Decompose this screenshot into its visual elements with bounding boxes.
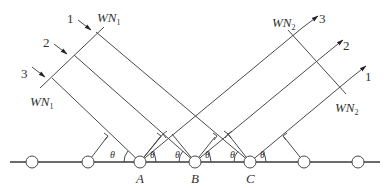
ray-label: 2	[343, 38, 350, 53]
angle-label: θ	[110, 149, 115, 160]
wavefront-wn2	[288, 30, 346, 94]
arrow-icon	[328, 40, 343, 52]
node-c	[244, 156, 256, 168]
angle-label: θ	[205, 149, 210, 160]
ray-label: 1	[67, 11, 74, 26]
arrow-icon	[78, 20, 91, 30]
node-a	[134, 156, 146, 168]
incident-ray-3	[52, 78, 140, 162]
right-angle-mark	[157, 133, 161, 140]
arrow-icon	[352, 66, 366, 77]
reflected-ray-1	[250, 77, 352, 162]
arrow-icon	[302, 16, 318, 28]
wavefront-label-wn1-top: WN1	[97, 10, 121, 27]
point-label-b: B	[191, 171, 199, 186]
node	[298, 156, 310, 168]
wavefront-wn1	[40, 27, 104, 88]
reflection-diagram: θ θ θ θ θ θ A B C 1 2 3 3 2 1 WN1 WN1 WN…	[0, 0, 386, 188]
wavefront-label-wn1-bottom: WN1	[30, 94, 54, 111]
ray-label: 3	[21, 66, 28, 81]
wavefront-label-wn2-top: WN2	[272, 15, 296, 32]
angle-label: θ	[175, 149, 180, 160]
point-label-c: C	[246, 171, 255, 186]
wavefront-label-wn2-bottom: WN2	[335, 100, 359, 117]
arrow-icon	[54, 44, 67, 54]
node	[82, 156, 94, 168]
right-angle-mark	[228, 131, 232, 138]
angle-arc	[124, 151, 128, 162]
node	[26, 156, 38, 168]
angle-label: θ	[260, 149, 265, 160]
reflected-ray-2	[195, 52, 328, 162]
reflected-ray-3	[140, 28, 302, 162]
ray-label: 1	[365, 69, 372, 84]
angle-label: θ	[230, 149, 235, 160]
angle-label: θ	[150, 149, 155, 160]
ray-label: 3	[319, 11, 326, 26]
point-label-a: A	[135, 171, 144, 186]
incident-ray-2	[74, 55, 195, 162]
node	[352, 156, 364, 168]
ray-label: 2	[43, 35, 50, 50]
right-angle-mark	[104, 133, 108, 140]
arrow-icon	[32, 67, 45, 77]
node-b	[189, 156, 201, 168]
